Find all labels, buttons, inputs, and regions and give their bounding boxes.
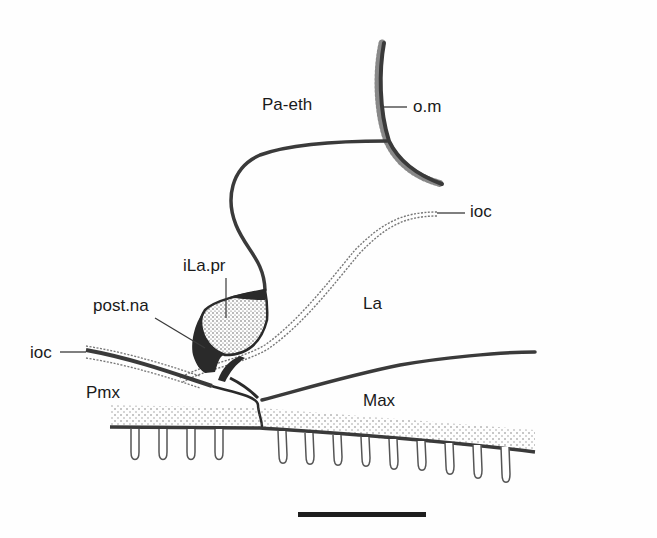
la-max-boundary [262,352,535,400]
label-pmx: Pmx [86,384,120,401]
scale-bar [298,512,426,517]
label-pa-eth: Pa-eth [262,96,312,113]
label-ioc-right: ioc [470,203,492,220]
label-ioc-left: ioc [30,344,52,361]
label-orbital-margin: o.m [413,98,441,115]
label-max: Max [363,392,395,409]
premaxilla-canal [60,346,212,388]
anatomical-figure: Pa-eth o.m ioc iLa.pr La post.na ioc Pmx… [0,0,657,538]
label-post-na: post.na [93,297,149,314]
label-la: La [363,295,382,312]
pa-eth-boundary [231,141,387,290]
premaxillary-teeth [131,429,223,460]
label-ila-pr: iLa.pr [183,257,226,274]
infraorbital-canal [180,212,465,382]
skull-drawing [0,0,657,538]
